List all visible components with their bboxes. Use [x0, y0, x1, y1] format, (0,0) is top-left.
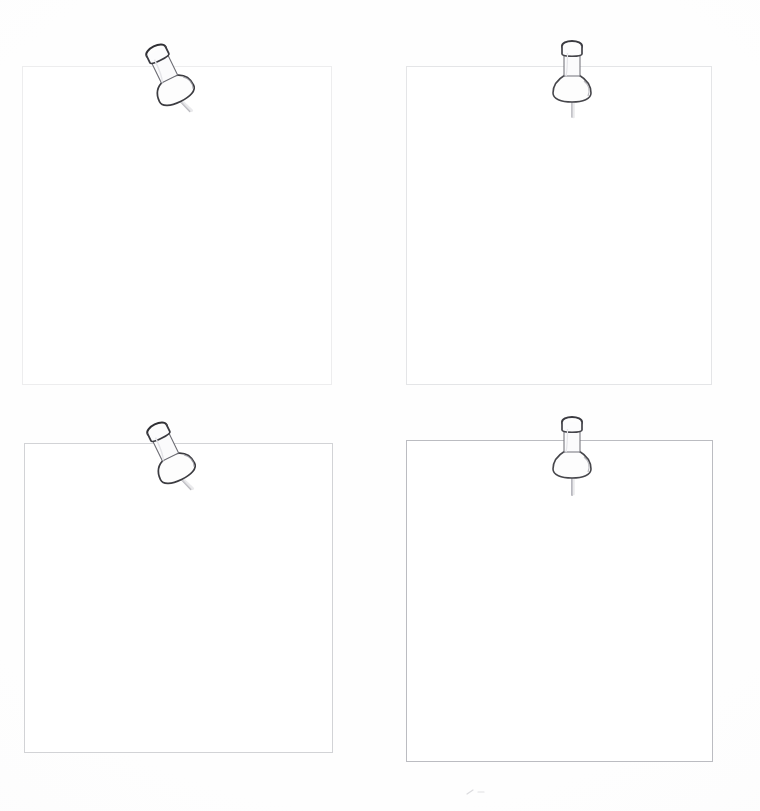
note-card-top-left[interactable] [22, 66, 332, 385]
note-card-top-right[interactable] [406, 66, 712, 385]
note-card-bottom-right[interactable] [406, 440, 713, 762]
note-text-bottom-left[interactable] [25, 444, 332, 752]
note-card-bottom-left[interactable] [24, 443, 333, 753]
note-text-top-right[interactable] [407, 67, 711, 384]
pinboard-canvas [0, 0, 760, 811]
smudge-icon [466, 788, 488, 797]
note-text-top-left[interactable] [23, 67, 331, 384]
note-text-bottom-right[interactable] [407, 441, 712, 761]
paper-smudge-mark [466, 783, 488, 792]
